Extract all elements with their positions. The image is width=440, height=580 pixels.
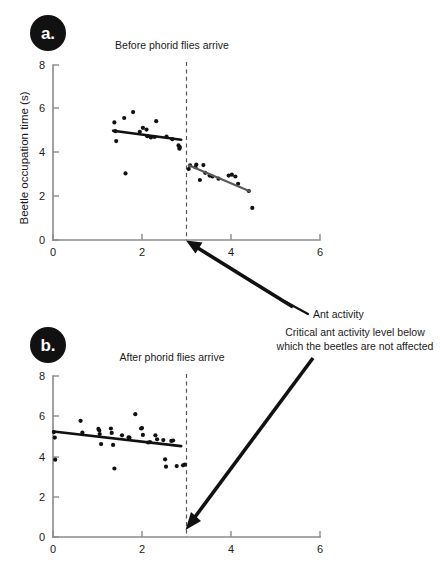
panel-a-fit-line-below [113, 131, 181, 140]
svg-text:8: 8 [39, 59, 45, 71]
svg-text:2: 2 [39, 491, 45, 503]
svg-text:8: 8 [39, 370, 45, 382]
svg-text:2: 2 [139, 246, 145, 258]
panel-b-x-ticks: 0 2 4 6 [50, 531, 323, 555]
ant-activity-label: Ant activity [313, 308, 365, 320]
ant-activity-callout-arrow-top [186, 241, 293, 308]
svg-text:0: 0 [50, 246, 56, 258]
panel-b-badge-label: b. [40, 336, 55, 355]
svg-text:0: 0 [39, 531, 45, 543]
svg-text:0: 0 [50, 543, 56, 555]
panel-a-x-ticks: 0 2 4 6 [50, 234, 323, 258]
panel-a-y-ticks: 0 2 4 6 8 [39, 59, 59, 246]
svg-text:4: 4 [39, 451, 45, 463]
svg-text:2: 2 [39, 190, 45, 202]
panel-b: b. After phorid flies arrive 0 2 4 6 8 [30, 327, 323, 555]
svg-text:6: 6 [317, 543, 323, 555]
panel-b-y-ticks: 0 2 4 6 8 [39, 370, 59, 543]
arrow-head-top [186, 241, 203, 254]
ant-activity-leader [286, 302, 308, 314]
svg-text:2: 2 [139, 543, 145, 555]
panel-b-scatter [52, 412, 187, 471]
panel-a-scatter-below [112, 110, 182, 175]
critical-level-line-2: which the beetles are not affected [276, 340, 434, 352]
svg-text:4: 4 [39, 146, 45, 158]
panel-a-badge-label: a. [41, 24, 55, 43]
ant-activity-callout-arrow-bottom [186, 358, 314, 530]
svg-text:6: 6 [317, 246, 323, 258]
critical-level-line-1: Critical ant activity level below [285, 326, 425, 338]
panel-a-fit-line-above [189, 165, 250, 191]
svg-text:6: 6 [39, 410, 45, 422]
panel-a-y-axis-title: Beetle occupation time (s) [18, 91, 30, 224]
figure-root: a. Before phorid flies arrive Beetle occ… [0, 0, 440, 580]
svg-text:6: 6 [39, 102, 45, 114]
svg-text:0: 0 [39, 234, 45, 246]
panel-a-title: Before phorid flies arrive [115, 39, 229, 51]
svg-text:4: 4 [228, 246, 234, 258]
panel-a: a. Before phorid flies arrive Beetle occ… [18, 15, 323, 258]
panel-b-title: After phorid flies arrive [119, 351, 224, 363]
svg-text:4: 4 [228, 543, 234, 555]
scientific-figure: a. Before phorid flies arrive Beetle occ… [0, 0, 440, 580]
